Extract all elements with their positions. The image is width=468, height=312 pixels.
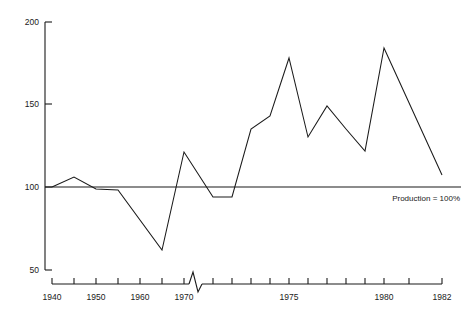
y-axis (45, 22, 52, 270)
y-label-200: 200 (25, 17, 39, 27)
x-label-1982: 1982 (433, 292, 452, 302)
series-line-production (52, 48, 442, 250)
x-label-1950: 1950 (87, 292, 106, 302)
x-label-1980: 1980 (375, 292, 394, 302)
x-label-1975: 1975 (280, 292, 299, 302)
x-label-1940: 1940 (43, 292, 62, 302)
chart-canvas: 200 150 100 50 (0, 0, 468, 312)
y-label-100: 100 (25, 182, 39, 192)
y-axis-tick-labels: 200 150 100 50 (25, 17, 39, 275)
x-label-1970: 1970 (175, 292, 194, 302)
x-axis-tick-labels: 1940 1950 1960 1970 1975 1980 1982 (43, 292, 452, 302)
x-label-1960: 1960 (131, 292, 150, 302)
x-axis (52, 272, 442, 292)
line-chart: 200 150 100 50 (0, 0, 468, 312)
y-label-50: 50 (30, 265, 40, 275)
y-label-150: 150 (25, 99, 39, 109)
x-axis-break-icon (189, 272, 202, 292)
reference-line-annotation: Production = 100% (392, 194, 460, 203)
